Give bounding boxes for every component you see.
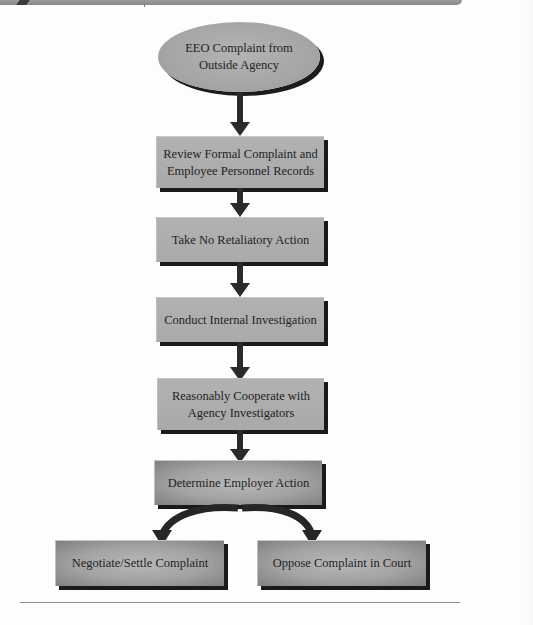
outcome-oppose-in-court: Oppose Complaint in Court: [257, 540, 426, 586]
branch-arrows-icon: [0, 0, 533, 625]
bottom-divider: [20, 602, 460, 603]
outcome-negotiate-label: Negotiate/Settle Complaint: [72, 555, 208, 572]
outcome-oppose-label: Oppose Complaint in Court: [273, 555, 412, 572]
outcome-negotiate-settle: Negotiate/Settle Complaint: [55, 540, 224, 586]
page-edge: [525, 0, 533, 625]
